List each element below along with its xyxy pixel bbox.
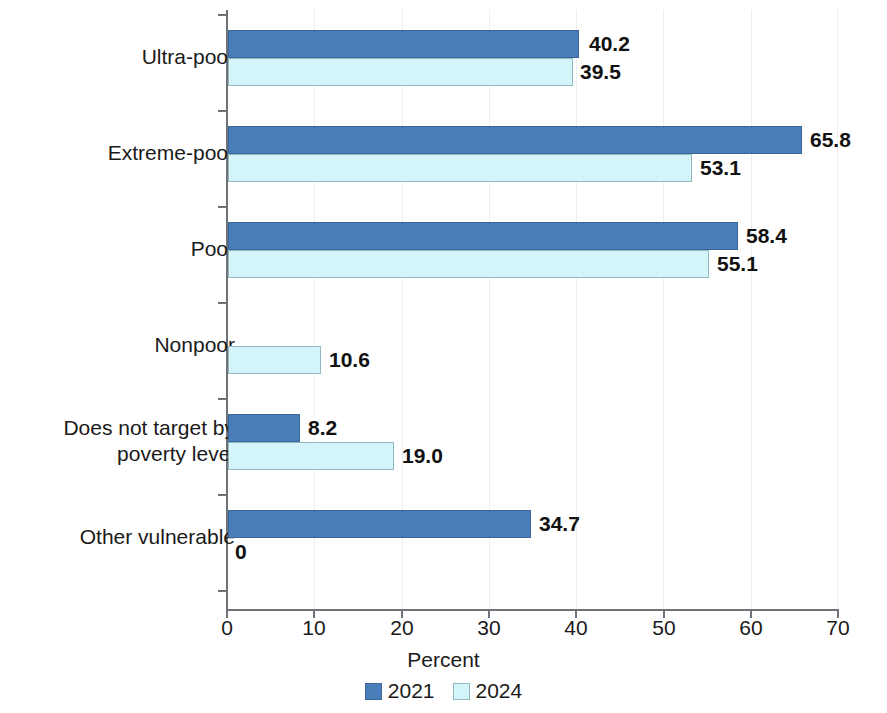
bar-value-2021: 8.2 — [308, 414, 337, 442]
x-tick-label: 0 — [197, 616, 257, 640]
bar-2021[interactable] — [228, 414, 300, 442]
bar-2024[interactable] — [228, 154, 692, 182]
x-tick-label: 60 — [721, 616, 781, 640]
bar-2021[interactable] — [228, 30, 579, 58]
legend-item-2024[interactable]: 2024 — [453, 679, 523, 703]
x-tick-label: 70 — [808, 616, 868, 640]
bar-value-2021: 58.4 — [746, 222, 787, 250]
y-axis-tick — [218, 494, 227, 496]
legend-item-2021[interactable]: 2021 — [365, 679, 435, 703]
category-label: Does not target by poverty level — [0, 415, 235, 467]
x-axis-title: Percent — [0, 648, 887, 672]
gridline — [837, 10, 838, 610]
y-axis-tick — [218, 302, 227, 304]
x-tick-label: 20 — [372, 616, 432, 640]
y-axis-tick — [218, 398, 227, 400]
category-label: Poor — [0, 236, 235, 262]
bar-value-2021: 40.2 — [589, 30, 630, 58]
x-tick-label: 50 — [634, 616, 694, 640]
y-axis-tick — [218, 14, 227, 16]
bar-value-2024: 55.1 — [717, 250, 758, 278]
y-axis-tick — [218, 110, 227, 112]
bar-value-2021: 65.8 — [810, 126, 851, 154]
bar-2024[interactable] — [228, 442, 394, 470]
x-tick-label: 10 — [284, 616, 344, 640]
bar-value-2021: 34.7 — [539, 510, 580, 538]
category-label: Nonpoor — [0, 332, 235, 358]
x-tick-label: 30 — [459, 616, 519, 640]
category-label: Ultra-poor — [0, 44, 235, 70]
y-axis-tick — [218, 206, 227, 208]
legend-swatch-icon-2024 — [453, 683, 470, 700]
bar-value-2024: 53.1 — [700, 154, 741, 182]
y-axis-tick — [218, 590, 227, 592]
legend-label: 2024 — [476, 679, 523, 703]
bar-2021[interactable] — [228, 126, 802, 154]
bar-2024[interactable] — [228, 58, 573, 86]
bar-2024[interactable] — [228, 346, 321, 374]
legend: 2021 2024 — [0, 679, 887, 703]
bar-2024[interactable] — [228, 250, 709, 278]
bar-value-2024: 39.5 — [580, 58, 621, 86]
x-tick-label: 40 — [546, 616, 606, 640]
legend-swatch-icon-2021 — [365, 683, 382, 700]
bar-value-2024: 19.0 — [402, 442, 443, 470]
category-label: Extreme-poor — [0, 140, 235, 166]
gridline — [663, 10, 664, 610]
x-axis-line — [226, 609, 839, 611]
category-label: Other vulnerable — [0, 524, 235, 550]
bar-2021[interactable] — [228, 510, 531, 538]
gridline — [751, 10, 752, 610]
legend-label: 2021 — [388, 679, 435, 703]
bar-chart: 0 10 20 30 40 50 60 70 Ultra-poor 40.2 3… — [0, 0, 887, 713]
bar-value-2024: 10.6 — [329, 346, 370, 374]
bar-2021[interactable] — [228, 222, 738, 250]
bar-value-2024: 0 — [235, 538, 247, 566]
